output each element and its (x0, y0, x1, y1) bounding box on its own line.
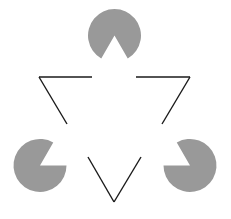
kanizsa-triangle-figure (0, 0, 231, 219)
kanizsa-figure-container (0, 0, 231, 219)
